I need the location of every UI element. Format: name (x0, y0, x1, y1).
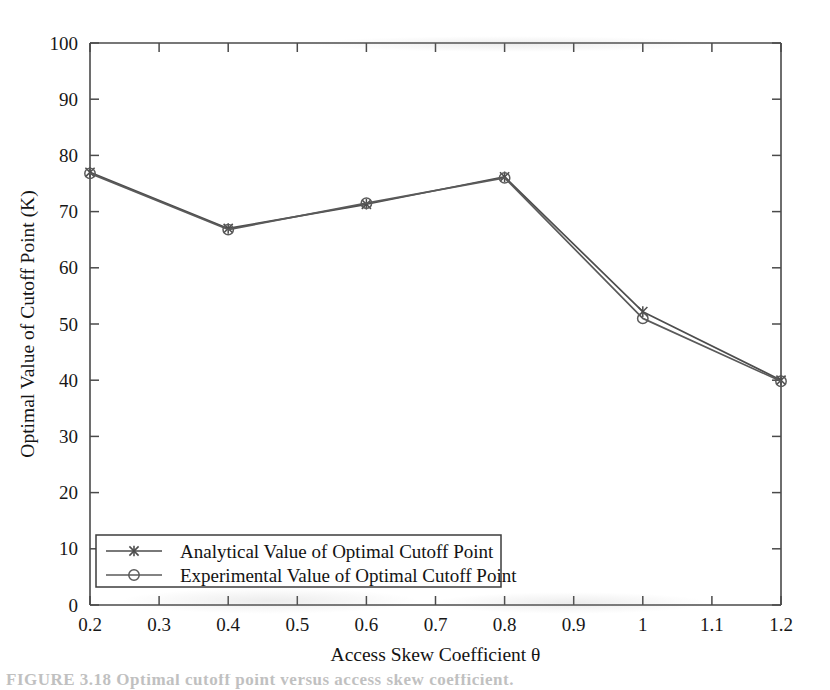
y-tick-label: 40 (59, 370, 78, 391)
x-tick-label: 1.2 (769, 614, 793, 635)
y-tick-label: 70 (59, 201, 78, 222)
line-chart: 01020304050607080901000.20.30.40.50.60.7… (0, 0, 830, 690)
x-tick-label: 1 (638, 614, 648, 635)
x-tick-label: 0.3 (147, 614, 171, 635)
x-tick-label: 0.7 (424, 614, 448, 635)
series-line-1 (90, 173, 781, 381)
x-tick-label: 1.1 (700, 614, 724, 635)
figure-caption: FIGURE 3.18 Optimal cutoff point versus … (6, 674, 514, 690)
y-tick-label: 10 (59, 538, 78, 559)
y-axis-title: Optimal Value of Cutoff Point (K) (17, 190, 39, 457)
figure-caption-strip: FIGURE 3.18 Optimal cutoff point versus … (0, 674, 830, 690)
y-tick-label: 0 (69, 595, 79, 616)
series-line-0 (90, 172, 781, 380)
y-tick-label: 50 (59, 314, 78, 335)
y-tick-label: 20 (59, 482, 78, 503)
x-axis-title: Access Skew Coefficient θ (331, 644, 541, 665)
figure-container: 01020304050607080901000.20.30.40.50.60.7… (0, 0, 830, 690)
x-tick-label: 0.2 (78, 614, 102, 635)
y-tick-label: 100 (50, 33, 79, 54)
legend-entry-label-0: Analytical Value of Optimal Cutoff Point (180, 541, 494, 562)
x-tick-label: 0.8 (493, 614, 517, 635)
x-tick-label: 0.9 (562, 614, 586, 635)
x-tick-label: 0.5 (285, 614, 309, 635)
x-tick-label: 0.6 (355, 614, 379, 635)
y-tick-label: 80 (59, 145, 78, 166)
y-tick-label: 90 (59, 89, 78, 110)
x-tick-label: 0.4 (216, 614, 240, 635)
y-tick-label: 60 (59, 257, 78, 278)
legend-entry-label-1: Experimental Value of Optimal Cutoff Poi… (180, 565, 517, 586)
y-tick-label: 30 (59, 426, 78, 447)
